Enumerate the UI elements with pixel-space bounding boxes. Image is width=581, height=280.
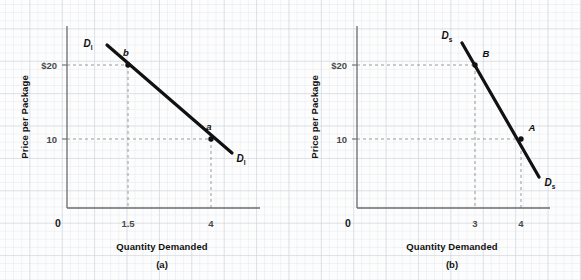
- x-axis-title-b: Quantity Demanded: [406, 241, 498, 252]
- x-tick-label-1-5-a: 1.5: [121, 218, 135, 229]
- curve-label-top-a: DI: [83, 38, 92, 51]
- point-b-marker: [125, 62, 130, 67]
- y-tick-label-20-a: $20: [41, 60, 57, 71]
- y-tick-label-10-b: 10: [336, 134, 347, 145]
- x-tick-label-4-b: 4: [518, 218, 524, 229]
- panel-a-chart: b a DI DI $20 10 0 1.5 4 Quantity Demand…: [0, 0, 291, 280]
- origin-label-a: 0: [55, 217, 61, 229]
- demand-elasticity-figure: b a DI DI $20 10 0 1.5 4 Quantity Demand…: [0, 0, 581, 280]
- point-A-marker: [518, 136, 523, 141]
- y-axis-title-b: Price per Package: [309, 75, 320, 159]
- panel-caption-b: (b): [446, 259, 458, 270]
- panel-b-chart: B A Ds Ds $20 10 0 3 4 Quantity Demanded…: [290, 0, 581, 280]
- x-axis-title-a: Quantity Demanded: [116, 241, 208, 252]
- curve-label-bottom-a: DI: [236, 153, 245, 166]
- curve-label-top-b: Ds: [442, 30, 453, 43]
- guide-lines-b: [357, 65, 521, 208]
- point-label-A: A: [528, 122, 536, 133]
- point-label-B: B: [483, 48, 490, 59]
- y-tick-label-10-a: 10: [46, 134, 57, 145]
- point-a-marker: [208, 136, 213, 141]
- panel-caption-a: (a): [156, 259, 168, 270]
- curve-label-bottom-b: Ds: [545, 177, 556, 190]
- panel-a: b a DI DI $20 10 0 1.5 4 Quantity Demand…: [0, 0, 291, 280]
- y-tick-label-20-b: $20: [331, 60, 347, 71]
- y-axis-title-a: Price per Package: [19, 75, 30, 159]
- x-tick-label-4-a: 4: [208, 218, 214, 229]
- point-label-b: b: [123, 47, 129, 58]
- x-tick-label-3-b: 3: [472, 218, 477, 229]
- point-label-a: a: [206, 121, 211, 132]
- point-B-marker: [472, 62, 477, 67]
- guide-lines-a: [67, 65, 211, 208]
- origin-label-b: 0: [345, 217, 351, 229]
- demand-curve-a: [107, 45, 232, 153]
- panel-b: B A Ds Ds $20 10 0 3 4 Quantity Demanded…: [290, 0, 581, 280]
